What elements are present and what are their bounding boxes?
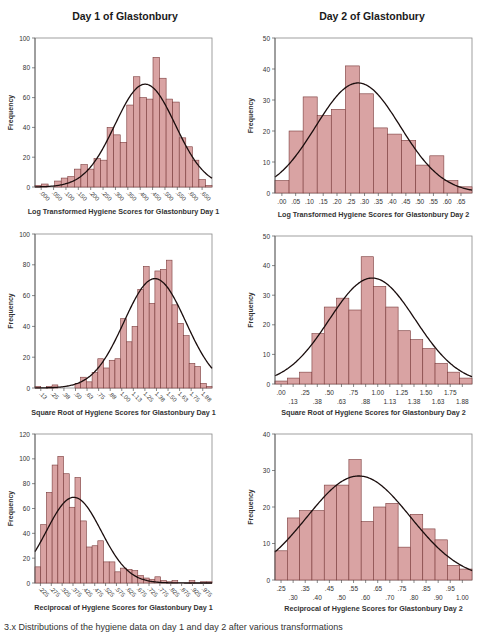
histogram-bar	[166, 260, 172, 388]
x-tick-label: 1.13	[131, 390, 144, 403]
x-tick-label: .25	[346, 198, 355, 205]
x-tick-label: .050	[51, 189, 64, 202]
histogram-bar	[133, 77, 140, 187]
x-axis: .000.050.100.150.200.250.300.350.400.450…	[28, 187, 220, 216]
x-tick-label: .550	[175, 189, 188, 202]
histogram-bar	[317, 116, 331, 194]
x-axis-label: Log Transformed Hygiene Scores for Glast…	[28, 207, 220, 216]
x-tick-label: .50	[337, 594, 346, 601]
y-axis-label: Frequency	[247, 489, 255, 525]
x-tick-label: .70	[385, 594, 394, 601]
y-axis: 020406080100Frequency	[7, 231, 35, 392]
x-axis: .00.13.25.38.50.63.75.881.001.131.251.38…	[277, 384, 470, 417]
histogram-bar	[416, 165, 430, 193]
histogram-bar	[94, 159, 101, 187]
x-tick-label: .45	[401, 198, 410, 205]
histogram-bar	[402, 140, 416, 193]
x-tick-label: .00	[277, 389, 286, 396]
x-tick-label: .875	[179, 585, 192, 598]
figure-caption: 3.x Distributions of the hygiene data on…	[4, 622, 343, 632]
y-tick-label: 10	[263, 159, 271, 166]
x-axis-label: Reciprocal of Hygiene Scores for Glaston…	[34, 603, 213, 612]
y-tick-label: 40	[263, 431, 271, 438]
x-tick-label: .100	[63, 189, 76, 202]
x-tick-label: .525	[103, 585, 116, 598]
histogram-bar	[69, 507, 75, 583]
histogram-bar	[460, 569, 472, 580]
histogram-bar	[104, 562, 110, 583]
histogram-bar	[206, 386, 212, 388]
histogram-bar	[107, 127, 114, 187]
x-tick-label: .575	[114, 585, 127, 598]
histogram-bar	[98, 359, 104, 388]
y-tick-label: 20	[23, 555, 31, 562]
x-tick-label: 1.88	[200, 390, 213, 403]
histogram-bar	[361, 257, 373, 384]
histogram-bar	[444, 181, 458, 193]
histogram-bar	[186, 147, 193, 187]
x-tick-label: .375	[70, 585, 83, 598]
x-tick-label: .50	[73, 390, 84, 401]
x-tick-label: .38	[61, 390, 72, 401]
x-tick-label: .60	[443, 198, 452, 205]
histogram-bar	[86, 382, 92, 388]
x-tick-label: 1.00	[119, 390, 132, 403]
histogram-bar	[199, 180, 206, 187]
x-tick-label: 1.63	[177, 390, 190, 403]
y-tick-label: 40	[23, 530, 31, 537]
x-tick-label: .13	[38, 390, 49, 401]
y-axis-label: Frequency	[247, 292, 255, 328]
y-tick-label: 0	[26, 385, 30, 392]
x-tick-label: 1.25	[142, 390, 155, 403]
x-tick-label: .55	[429, 198, 438, 205]
x-tick-label: 1.00	[371, 389, 384, 396]
x-tick-label: 1.50	[420, 389, 433, 396]
y-tick-label: 40	[23, 124, 31, 131]
x-tick-label: .450	[150, 189, 163, 202]
histogram-bar	[146, 99, 153, 187]
x-tick-label: .60	[361, 594, 370, 601]
x-tick-label: .30	[360, 198, 369, 205]
histogram-bar	[61, 178, 68, 187]
x-tick-label: .925	[190, 585, 203, 598]
histogram-bar	[345, 66, 359, 193]
histogram-bar	[153, 57, 160, 187]
histogram-log-day1: 020406080100Frequency.000.050.100.150.20…	[7, 35, 219, 217]
x-tick-label: .85	[422, 585, 431, 592]
x-tick-label: .775	[157, 585, 170, 598]
x-axis-label: Log Transformed Hygiene Scores for Glast…	[278, 210, 470, 219]
y-tick-label: 60	[23, 505, 31, 512]
histogram-bar	[126, 342, 132, 388]
histogram-bar	[388, 134, 402, 193]
x-tick-label: .63	[84, 390, 95, 401]
bars	[275, 257, 472, 384]
histogram-bar	[75, 477, 81, 583]
y-axis-label: Frequency	[247, 98, 255, 134]
histogram-bar	[337, 485, 349, 580]
x-tick-label: 1.75	[188, 390, 201, 403]
x-tick-label: .25	[301, 389, 310, 396]
histogram-bar	[398, 547, 410, 580]
x-tick-label: .225	[38, 585, 51, 598]
histogram-bar	[331, 109, 345, 193]
histogram-bar	[349, 310, 361, 384]
histogram-bar	[92, 373, 98, 388]
y-axis-label: Frequency	[7, 491, 15, 527]
x-tick-label: .150	[76, 189, 89, 202]
histogram-bar	[195, 366, 201, 388]
histogram-bar	[173, 102, 180, 187]
histogram-bar	[435, 540, 447, 580]
x-tick-label: .15	[319, 198, 328, 205]
histogram-bar	[172, 305, 178, 388]
histogram-bar	[52, 465, 58, 583]
x-tick-label: .650	[199, 189, 212, 202]
y-axis: 01020304050Frequency	[247, 233, 275, 388]
histogram-bar	[423, 348, 435, 384]
histogram-bar	[386, 503, 398, 580]
histogram-bar	[104, 368, 110, 388]
x-tick-label: .275	[49, 585, 62, 598]
x-axis: .25.30.35.40.45.50.55.60.65.70.75.80.85.…	[277, 580, 470, 613]
histogram-recip-day2: 010203040Frequency.25.30.35.40.45.50.55.…	[247, 431, 472, 614]
histogram-bar	[374, 507, 386, 580]
x-tick-label: .500	[162, 189, 175, 202]
